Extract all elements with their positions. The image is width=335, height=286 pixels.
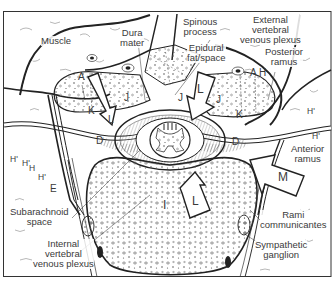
- marker-H-right: H: [259, 68, 266, 78]
- marker-D-left: D: [96, 136, 103, 146]
- label-internal-vertebral-venous-plexus: Internalvertebralvenous plexus: [33, 239, 94, 269]
- marker-H-left: H: [29, 163, 35, 173]
- marker-L-bottom: L: [192, 196, 199, 206]
- marker-K-right: K: [236, 110, 243, 120]
- vertebral-body: [87, 158, 257, 275]
- label-rc-line2: communicantes: [260, 219, 327, 230]
- marker-L-left: L: [108, 115, 114, 125]
- label-dura-mater: Duramater: [120, 28, 144, 48]
- marker-L-top: L: [197, 84, 204, 94]
- marker-E: E: [50, 184, 57, 194]
- label-ivvp-line3: venous plexus: [33, 258, 94, 269]
- label-subarachnoid-space: Subarachnoidspace: [10, 207, 69, 227]
- label-anterior-ramus: Anteriorramus: [291, 144, 324, 164]
- marker-H-prime-3: H': [38, 172, 46, 182]
- label-rami-communicantes: Ramicommunicantes: [260, 210, 327, 230]
- marker-J-center: J: [178, 93, 183, 103]
- label-posterior-ramus: Posteriorramus: [265, 47, 303, 67]
- label-spinous-line2: process: [184, 26, 217, 37]
- label-sg-line2: ganglion: [263, 249, 299, 260]
- label-epidural-fat-space: Epiduralfat/space: [187, 43, 226, 63]
- label-external-vertebral-venous-plexus: Externalvertebralvenous plexus: [240, 15, 301, 45]
- marker-I: I: [163, 200, 166, 210]
- label-ar-line2: ramus: [294, 153, 320, 164]
- right-sympathetic-ganglion: [238, 215, 250, 235]
- label-sympathetic-ganglion: Sympatheticganglion: [255, 240, 307, 260]
- spinal-cord: [150, 122, 190, 158]
- label-epidural-line2: fat/space: [187, 52, 226, 63]
- marker-A-left: A: [78, 72, 85, 82]
- label-pr-line2: ramus: [271, 56, 297, 67]
- label-dura-line2: mater: [120, 37, 144, 48]
- label-sas-line2: space: [27, 216, 52, 227]
- marker-H-prime-1: H': [10, 154, 18, 164]
- marker-K-left: K: [88, 106, 95, 116]
- label-muscle: Muscle: [41, 36, 71, 46]
- marker-J-right: J: [216, 95, 221, 105]
- marker-A-right: A: [250, 68, 257, 78]
- left-sympathetic-ganglion: [82, 216, 94, 236]
- marker-H-prime-right-1: H': [307, 106, 315, 116]
- label-spinous-process: Spinousprocess: [183, 17, 217, 37]
- marker-M: M: [278, 172, 288, 182]
- marker-H-prime-right-2: H': [312, 131, 320, 141]
- marker-J-left: J: [124, 93, 129, 103]
- label-evvp-line3: venous plexus: [240, 34, 301, 45]
- marker-D-right: D: [232, 137, 239, 147]
